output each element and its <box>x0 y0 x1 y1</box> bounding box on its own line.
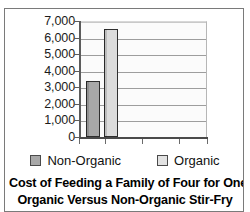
legend-swatch-icon <box>157 155 168 166</box>
y-axis-tick-label: 6,000 <box>13 31 75 44</box>
y-axis-tick-mark <box>74 54 80 55</box>
plot-region: 7,0006,0005,0004,0003,0002,0001,0000 <box>5 13 244 147</box>
y-axis-tick-label: 7,000 <box>13 15 75 28</box>
x-axis-tick-mark <box>179 139 180 144</box>
y-axis-tick-label: 0 <box>13 131 75 144</box>
legend-label: Organic <box>174 154 220 167</box>
bar-organic <box>104 29 118 137</box>
x-axis-line <box>79 137 208 139</box>
chart-figure: 7,0006,0005,0004,0003,0002,0001,0000 Non… <box>4 8 244 206</box>
legend-entry: Organic <box>157 154 220 167</box>
y-axis-tick-mark <box>74 71 80 72</box>
bar-shading <box>86 81 89 137</box>
legend-entry: Non-Organic <box>30 154 121 167</box>
legend-swatch-icon <box>30 155 41 166</box>
gridline <box>80 22 206 23</box>
plot-area <box>80 21 207 137</box>
y-axis-tick-labels: 7,0006,0005,0004,0003,0002,0001,0000 <box>13 21 75 137</box>
chart-title-line-1: Cost of Feeding a Family of Four for One… <box>9 175 241 192</box>
x-axis-tick-mark <box>79 139 80 144</box>
chart-title: Cost of Feeding a Family of Four for One… <box>9 175 241 206</box>
y-axis-tick-label: 3,000 <box>13 81 75 94</box>
y-axis-tick-label: 1,000 <box>13 114 75 127</box>
chart-legend: Non-OrganicOrganic <box>5 149 244 171</box>
x-axis-tick-mark <box>142 139 143 144</box>
legend-label: Non-Organic <box>47 154 121 167</box>
x-axis-tick-mark <box>105 139 106 144</box>
y-axis-tick-mark <box>74 38 80 39</box>
chart-title-line-2: Organic Versus Non-Organic Stir-Fry <box>9 192 241 206</box>
x-axis-tick-mark <box>207 139 208 144</box>
gridline <box>80 72 206 73</box>
y-axis-tick-label: 4,000 <box>13 64 75 77</box>
y-axis-tick-mark <box>74 137 80 138</box>
y-axis-tick-label: 5,000 <box>13 48 75 61</box>
bar-shading <box>104 29 107 137</box>
gridline <box>80 55 206 56</box>
y-axis-tick-mark <box>74 21 80 22</box>
gridline <box>80 39 206 40</box>
y-axis-tick-mark <box>74 87 80 88</box>
y-axis-tick-label: 2,000 <box>13 98 75 111</box>
bar-non-organic <box>86 81 100 137</box>
y-axis-tick-mark <box>74 120 80 121</box>
y-axis-tick-mark <box>74 104 80 105</box>
